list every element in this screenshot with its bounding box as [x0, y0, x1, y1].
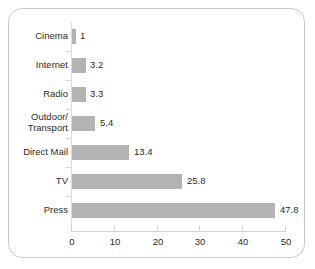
x-axis-tick — [71, 226, 72, 232]
bar-direct-mail — [72, 145, 129, 160]
category-label-cinema: Cinema — [0, 30, 68, 41]
x-axis-tick-label: 50 — [266, 236, 306, 247]
bar-cinema — [72, 29, 76, 44]
category-label-outdoor-transport: Outdoor/ Transport — [0, 111, 68, 133]
x-axis-tick-label: 40 — [223, 236, 263, 247]
x-axis-tick-label: 0 — [52, 236, 92, 247]
category-label-internet: Internet — [0, 59, 68, 70]
bar-row-cinema: Cinema 1 — [0, 22, 315, 51]
bar-value-radio: 3.3 — [90, 88, 103, 99]
category-label-direct-mail: Direct Mail — [0, 146, 68, 157]
bar-row-press: Press 47.8 — [0, 196, 315, 225]
bar-value-direct-mail: 13.4 — [134, 146, 153, 157]
bar-value-outdoor-transport: 5.4 — [100, 117, 113, 128]
x-axis-tick-label: 10 — [95, 236, 135, 247]
bar-row-tv: TV 25.8 — [0, 167, 315, 196]
x-axis-tick — [199, 226, 200, 232]
x-axis-line — [71, 231, 285, 232]
category-label-tv: TV — [0, 175, 68, 186]
category-label-press: Press — [0, 204, 68, 215]
bar-chart-figure: Cinema 1 Internet 3.2 Radio 3.3 Outdoor/… — [0, 0, 315, 269]
bar-outdoor-transport — [72, 116, 95, 131]
x-axis-tick — [242, 226, 243, 232]
x-axis-tick-label: 20 — [138, 236, 178, 247]
bar-value-internet: 3.2 — [90, 59, 103, 70]
bar-row-direct-mail: Direct Mail 13.4 — [0, 138, 315, 167]
bar-internet — [72, 58, 86, 73]
bar-row-outdoor-transport: Outdoor/ Transport 5.4 — [0, 109, 315, 138]
bar-press — [72, 203, 275, 218]
bar-radio — [72, 87, 86, 102]
x-axis-tick — [157, 226, 158, 232]
x-axis-tick — [285, 226, 286, 232]
bar-row-radio: Radio 3.3 — [0, 80, 315, 109]
category-label-radio: Radio — [0, 88, 68, 99]
bar-row-internet: Internet 3.2 — [0, 51, 315, 80]
x-axis-tick-label: 30 — [180, 236, 220, 247]
bar-value-press: 47.8 — [280, 204, 299, 215]
bar-tv — [72, 174, 182, 189]
x-axis-tick — [114, 226, 115, 232]
plot-area: Cinema 1 Internet 3.2 Radio 3.3 Outdoor/… — [0, 0, 315, 269]
bar-value-cinema: 1 — [80, 30, 85, 41]
bar-value-tv: 25.8 — [187, 175, 206, 186]
